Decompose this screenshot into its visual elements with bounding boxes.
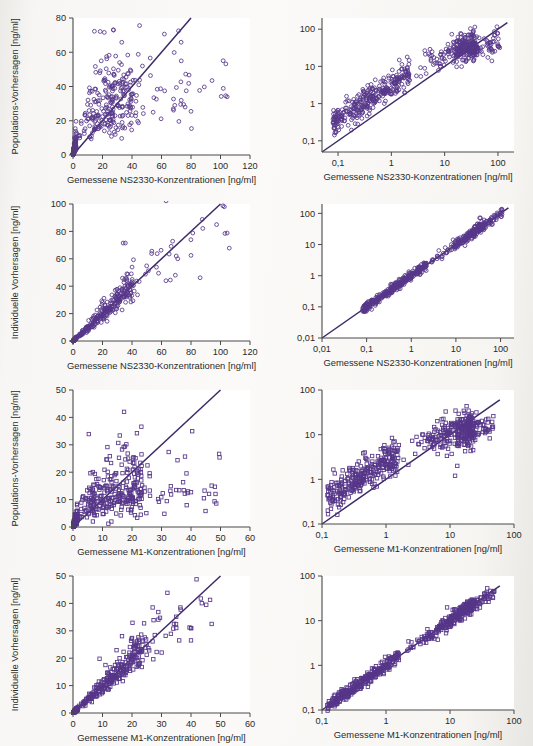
x-tick-label: 120	[242, 161, 257, 171]
y-tick-label: 20	[56, 309, 66, 319]
y-tick-label: 100	[300, 571, 315, 581]
y-tick-label: 50	[56, 385, 66, 395]
y-tick-label: 60	[56, 48, 66, 58]
panel-3-canvas: 020406080100120020406080100Gemessene NS2…	[0, 186, 266, 372]
x-tick-label: 120	[242, 347, 257, 357]
x-tick-label: 0	[70, 533, 75, 543]
panel-8-canvas: 0,11101000,1110100Gemessene M1-Konzentra…	[266, 558, 533, 744]
panel-7-individual-m1-linear: 010203040506001020304050Gemessene M1-Kon…	[0, 558, 266, 746]
x-tick-label: 100	[493, 344, 508, 354]
x-tick-label: 10	[445, 716, 455, 726]
x-tick-label: 0,1	[316, 716, 329, 726]
x-tick-label: 10	[97, 533, 107, 543]
y-tick-label: 1	[310, 661, 315, 671]
x-tick-label: 20	[127, 533, 137, 543]
x-tick-label: 50	[215, 533, 225, 543]
x-axis-label: Gemessene M1-Konzentrationen [ng/ml]	[77, 546, 245, 557]
y-axis-label: Populations-Vorhersagen [ng/ml]	[9, 390, 20, 526]
x-tick-label: 100	[213, 161, 228, 171]
y-tick-label: 30	[56, 440, 66, 450]
y-axis-label: Populations-Vorhersagen [ng/ml]	[9, 18, 20, 154]
x-tick-label: 0	[70, 161, 75, 171]
panel-1-canvas: 020406080100120020406080Gemessene NS2330…	[0, 0, 266, 186]
x-tick-label: 100	[213, 347, 228, 357]
x-tick-label: 100	[506, 530, 521, 540]
x-tick-label: 1	[383, 530, 388, 540]
x-tick-label: 50	[215, 719, 225, 729]
x-axis-label: Gemessene M1-Konzentrationen [ng/ml]	[334, 729, 502, 740]
x-tick-label: 60	[245, 533, 255, 543]
x-tick-label: 40	[186, 533, 196, 543]
x-tick-label: 0,01	[313, 344, 331, 354]
x-tick-label: 60	[156, 347, 166, 357]
x-tick-label: 0,1	[360, 344, 373, 354]
x-tick-label: 20	[97, 347, 107, 357]
y-tick-label: 80	[56, 13, 66, 23]
figure-panel-grid: 020406080100120020406080Gemessene NS2330…	[0, 0, 533, 746]
x-tick-label: 100	[506, 716, 521, 726]
x-tick-label: 0,1	[316, 530, 329, 540]
y-tick-label: 100	[300, 209, 315, 219]
y-tick-label: 10	[305, 430, 315, 440]
y-tick-label: 10	[305, 616, 315, 626]
x-axis-label: Gemessene NS2330-Konzentrationen [ng/ml]	[67, 360, 256, 371]
y-tick-label: 100	[300, 385, 315, 395]
y-tick-label: 0,1	[302, 302, 315, 312]
panel-4-canvas: 0,010,11101000,010,1110100Gemessene NS23…	[266, 186, 533, 372]
y-tick-label: 40	[56, 413, 66, 423]
y-tick-label: 10	[305, 240, 315, 250]
x-tick-label: 10	[445, 530, 455, 540]
x-tick-label: 0,1	[332, 158, 345, 168]
y-tick-label: 10	[56, 495, 66, 505]
y-tick-label: 20	[56, 116, 66, 126]
y-tick-label: 0	[61, 150, 66, 160]
x-tick-label: 60	[245, 719, 255, 729]
x-tick-label: 80	[186, 161, 196, 171]
x-tick-label: 60	[156, 161, 166, 171]
panel-6-canvas: 0,11101000,1110100Gemessene M1-Konzentra…	[266, 372, 533, 558]
x-axis-label: Gemessene NS2330-Konzentrationen [ng/ml]	[67, 174, 256, 185]
y-tick-label: 1	[310, 475, 315, 485]
panel-6-population-m1-log: 0,11101000,1110100Gemessene M1-Konzentra…	[266, 372, 533, 558]
x-axis-label: Gemessene NS2330-Konzentrationen [ng/ml]	[323, 357, 512, 368]
y-tick-label: 40	[56, 82, 66, 92]
x-axis-label: Gemessene M1-Konzentrationen [ng/ml]	[334, 543, 502, 554]
panel-2-canvas: 0,11101000,1110100Gemessene NS2330-Konze…	[266, 0, 533, 186]
x-tick-label: 1	[409, 344, 414, 354]
x-tick-label: 20	[127, 719, 137, 729]
x-tick-label: 40	[127, 161, 137, 171]
panel-5-canvas: 010203040506001020304050Gemessene M1-Kon…	[0, 372, 266, 558]
y-tick-label: 0,1	[302, 519, 315, 529]
x-tick-label: 1	[383, 716, 388, 726]
x-tick-label: 30	[156, 533, 166, 543]
y-tick-label: 10	[305, 62, 315, 72]
x-tick-label: 30	[156, 719, 166, 729]
y-tick-label: 0	[61, 522, 66, 532]
y-tick-label: 1	[310, 271, 315, 281]
panel-4-individual-ns2330-log: 0,010,11101000,010,1110100Gemessene NS23…	[266, 186, 533, 372]
x-tick-label: 40	[127, 347, 137, 357]
x-axis-label: Gemessene NS2330-Konzentrationen [ng/ml]	[323, 171, 512, 182]
panel-5-population-m1-linear: 010203040506001020304050Gemessene M1-Kon…	[0, 372, 266, 558]
y-tick-label: 0,1	[302, 136, 315, 146]
y-tick-label: 60	[56, 254, 66, 264]
x-tick-label: 10	[451, 344, 461, 354]
y-tick-label: 40	[56, 599, 66, 609]
y-tick-label: 100	[51, 199, 66, 209]
x-tick-label: 0	[70, 347, 75, 357]
y-axis-label: Individuelle Vorhersagen [ng/ml]	[9, 206, 20, 339]
y-tick-label: 50	[56, 571, 66, 581]
y-tick-label: 80	[56, 227, 66, 237]
x-tick-label: 0	[70, 719, 75, 729]
x-tick-label: 80	[186, 347, 196, 357]
x-tick-label: 10	[97, 719, 107, 729]
x-tick-label: 10	[440, 158, 450, 168]
y-tick-label: 1	[310, 99, 315, 109]
x-tick-label: 20	[97, 161, 107, 171]
y-tick-label: 0,1	[302, 705, 315, 715]
y-tick-label: 0	[61, 336, 66, 346]
x-tick-label: 1	[389, 158, 394, 168]
y-tick-label: 0,01	[297, 333, 315, 343]
y-tick-label: 100	[300, 24, 315, 34]
panel-2-population-ns2330-log: 0,11101000,1110100Gemessene NS2330-Konze…	[266, 0, 533, 186]
